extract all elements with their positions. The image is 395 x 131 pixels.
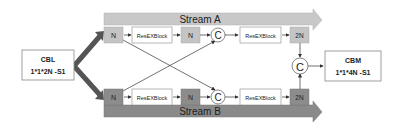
svg-text:C: C [296, 61, 304, 73]
svg-text:N: N [188, 32, 193, 39]
two-stream-diagram: Stream A Stream B CBL 1*1*2N -S1 N ResEX… [0, 0, 395, 131]
svg-text:ResEXBlock: ResEXBlock [245, 95, 276, 101]
svg-text:N: N [111, 94, 116, 101]
stream-b-label: Stream B [179, 106, 221, 117]
cbl-subtitle: 1*1*2N -S1 [30, 68, 65, 75]
svg-text:2N: 2N [295, 94, 304, 101]
svg-text:2N: 2N [295, 32, 304, 39]
stream-b-row: N ResEXBlock N C ResEXBlock 2N [104, 89, 309, 105]
final-concat-group: C [292, 43, 323, 89]
cbl-input-box: CBL 1*1*2N -S1 [22, 50, 74, 80]
cbm-title: CBM [345, 57, 361, 64]
svg-text:N: N [188, 94, 193, 101]
svg-text:C: C [214, 92, 221, 103]
stream-a-label: Stream A [179, 14, 220, 25]
stream-a-row: N ResEXBlock N C ResEXBlock 2N [104, 27, 309, 43]
cbm-subtitle: 1*1*4N -S1 [335, 69, 370, 76]
cross-line-b-to-a [123, 41, 215, 91]
svg-text:N: N [111, 32, 116, 39]
cross-line-a-to-b [123, 40, 215, 90]
svg-text:ResEXBlock: ResEXBlock [137, 95, 168, 101]
cbl-title: CBL [41, 56, 56, 63]
svg-text:C: C [214, 30, 221, 41]
svg-text:ResEXBlock: ResEXBlock [137, 33, 168, 39]
svg-text:ResEXBlock: ResEXBlock [245, 33, 276, 39]
cbm-output-box: CBM 1*1*4N -S1 [325, 51, 381, 81]
split-arrow [74, 31, 104, 100]
